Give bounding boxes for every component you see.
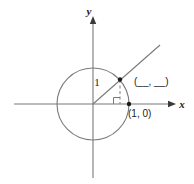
x-intercept-label: (1, 0): [128, 108, 151, 119]
terminal-point-label: (__, __): [134, 76, 168, 87]
x-intercept-point-dot: [127, 102, 131, 106]
y-axis-label: y: [85, 5, 92, 17]
unit-circle-diagram: x y 1 (__, __) (1, 0): [0, 0, 194, 184]
unit-circle-figure: x y 1 (__, __) (1, 0): [0, 0, 194, 184]
y-axis: [90, 16, 96, 178]
y-axis-arrowhead: [90, 16, 96, 24]
radius-length-label: 1: [94, 76, 100, 88]
x-axis-arrowhead: [168, 101, 176, 107]
terminal-point-dot: [118, 77, 122, 81]
x-axis-label: x: [178, 98, 185, 110]
terminal-ray: [93, 45, 160, 104]
right-angle-marker: [114, 98, 121, 105]
